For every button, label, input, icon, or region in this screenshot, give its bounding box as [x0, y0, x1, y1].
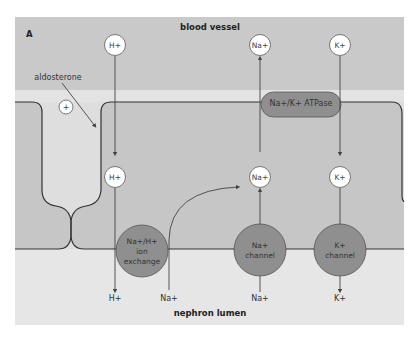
- aldosterone-label: aldosterone: [34, 73, 81, 82]
- lumen-h-ion: H+: [109, 294, 122, 303]
- na-channel-label: Na+ channel: [245, 241, 275, 261]
- stimulation-plus-icon: +: [59, 100, 74, 115]
- lumen-na-ion-channel: Na+: [251, 294, 269, 303]
- blood-h-ion: H+: [104, 34, 126, 56]
- cell-h-ion: H+: [104, 166, 126, 188]
- cell-na-ion: Na+: [249, 166, 271, 188]
- exchanger-line-2: ion: [136, 247, 147, 257]
- na-h-exchanger-label: Na+/H+ ion exchange: [124, 237, 160, 267]
- k-channel-line-2: channel: [325, 251, 355, 261]
- k-channel-label: K+ channel: [325, 241, 355, 261]
- panel-letter: A: [26, 29, 33, 39]
- na-channel-line-2: channel: [245, 251, 275, 261]
- k-channel-line-1: K+: [334, 241, 345, 251]
- na-k-atpase-label: Na+/K+ ATPase: [270, 99, 333, 109]
- lumen-na-ion-exchange: Na+: [160, 294, 178, 303]
- blood-k-ion: K+: [329, 34, 351, 56]
- blood-vessel-label: blood vessel: [180, 23, 240, 32]
- exchanger-line-1: Na+/H+: [127, 237, 158, 247]
- cell-k-ion: K+: [329, 166, 351, 188]
- blood-na-ion: Na+: [249, 34, 271, 56]
- exchanger-line-3: exchange: [124, 257, 160, 267]
- nephron-lumen-label: nephron lumen: [174, 309, 247, 318]
- diagram-canvas: [0, 0, 418, 338]
- na-channel-line-1: Na+: [252, 241, 269, 251]
- lumen-k-ion: K+: [334, 294, 346, 303]
